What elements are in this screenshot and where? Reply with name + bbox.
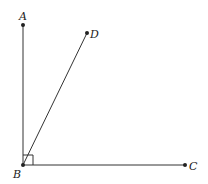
label-a: A (18, 10, 27, 23)
label-c: C (189, 160, 198, 173)
angle-diagram: A D B C (0, 0, 208, 184)
label-d: D (89, 28, 99, 41)
label-b: B (12, 168, 21, 181)
segment-bd (23, 33, 87, 165)
point-c (183, 163, 187, 167)
right-angle-marker (23, 155, 33, 165)
point-a (21, 23, 25, 27)
point-b (21, 163, 25, 167)
point-d (85, 31, 89, 35)
